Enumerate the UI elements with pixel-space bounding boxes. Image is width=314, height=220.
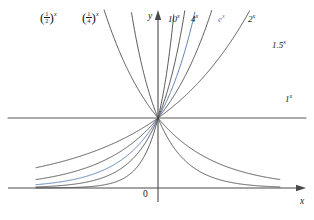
x-axis-arrowhead: [296, 185, 306, 191]
fraction-one-half: 12: [44, 11, 49, 25]
exponent-x: x: [290, 93, 293, 99]
curve-label-two: 2x: [248, 15, 255, 24]
exponent-x: x: [222, 13, 225, 19]
exponent-x: x: [177, 13, 180, 19]
exponential-functions-figure: (12)x (14)x y 10x 4x ex 2x 1.5x 1x 0 x: [0, 0, 314, 220]
exponent-x: x: [283, 39, 286, 45]
curve-label-e: ex: [218, 15, 225, 24]
origin-label: 0: [143, 190, 148, 200]
curve--1-4-x: [132, 13, 280, 187]
curve-label-one: 1x: [285, 95, 292, 104]
y-axis-arrowhead: [155, 10, 161, 20]
curve-label-one-half: (12)x: [40, 11, 57, 25]
fraction-one-quarter: 14: [86, 11, 91, 25]
exponent-x: x: [96, 11, 99, 17]
curve-label-one-point-five: 1.5x: [272, 41, 286, 50]
base-value: 10: [168, 14, 177, 24]
y-axis-label: y: [148, 12, 152, 22]
exponent-x: x: [54, 11, 57, 17]
curve-label-one-quarter: (14)x: [82, 11, 99, 25]
fraction-denominator: 4: [86, 17, 91, 24]
paren-close: ): [50, 10, 54, 25]
base-value: 1.5: [272, 40, 283, 50]
paren-close: ): [92, 10, 96, 25]
curves-layer: [8, 10, 306, 188]
exponent-x: x: [253, 13, 256, 19]
axes-layer: [8, 10, 306, 202]
curve--1-2-x: [104, 10, 280, 179]
graph-canvas: [0, 0, 314, 220]
fraction-denominator: 2: [44, 17, 49, 24]
curve-2-x: [36, 11, 212, 180]
curve-label-ten: 10x: [168, 15, 180, 24]
exponent-x: x: [196, 13, 199, 19]
curve-label-four: 4x: [191, 15, 198, 24]
curve-10-x: [36, 15, 174, 188]
x-axis-label: x: [300, 197, 304, 207]
curve-1-5-x: [36, 11, 250, 168]
